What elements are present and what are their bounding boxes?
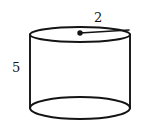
radius-label: 2 <box>94 11 102 24</box>
cylinder-drawing <box>0 0 144 139</box>
cylinder-figure-canvas: 2 5 <box>0 0 144 139</box>
cylinder-bottom-ellipse <box>30 97 130 119</box>
height-label: 5 <box>12 61 20 74</box>
top-face-center-dot <box>77 30 82 35</box>
